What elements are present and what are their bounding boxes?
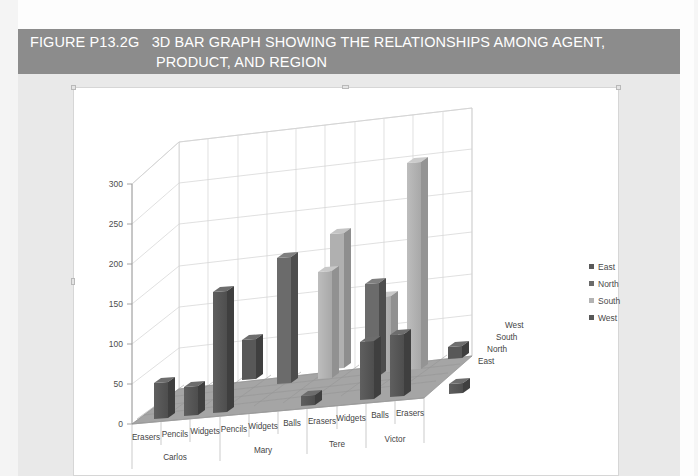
x-label-carlos-widgets: Widgets xyxy=(190,427,220,436)
legend-label-east: East xyxy=(598,262,615,272)
z-axis-label-west: West xyxy=(505,321,524,330)
x-label-carlos-pencils: Pencils xyxy=(162,430,188,439)
x-label-tere-balls: Balls xyxy=(283,419,301,428)
legend-label-south: South xyxy=(598,296,620,306)
figure-label: FIGURE P13.2G xyxy=(30,34,139,50)
x-label-victor-balls: Balls xyxy=(371,411,389,420)
legend-item-west[interactable]: West xyxy=(589,309,620,326)
bar-carlos-widgets-east[interactable] xyxy=(213,286,234,413)
legend-marker-west-icon xyxy=(589,315,594,320)
y-tick-label: 300 xyxy=(109,179,123,189)
y-tick-label: 100 xyxy=(109,339,123,349)
page-margin-left xyxy=(0,0,18,476)
chart-legend[interactable]: East North South West xyxy=(589,258,620,326)
legend-marker-south-icon xyxy=(589,298,594,303)
z-axis-label-south: South xyxy=(496,333,518,342)
x-group-label-mary: Mary xyxy=(254,446,273,455)
chart-plot-container: 300 250 200 150 100 50 0 xyxy=(74,88,618,475)
chart-y-tick-labels: 300 250 200 150 100 50 0 xyxy=(109,179,123,429)
legend-marker-east-icon xyxy=(589,264,594,269)
figure-title-line-2: PRODUCT, AND REGION xyxy=(156,54,327,70)
bar-mary-widgets-south[interactable] xyxy=(318,266,339,379)
chart-object[interactable]: 300 250 200 150 100 50 0 xyxy=(73,87,619,476)
legend-item-east[interactable]: East xyxy=(589,258,620,275)
z-axis-label-north: North xyxy=(487,345,507,354)
y-tick-label: 250 xyxy=(109,219,123,229)
document-page: FIGURE P13.2G 3D BAR GRAPH SHOWING THE R… xyxy=(0,0,698,476)
chart-y-axis-ticks xyxy=(127,184,132,424)
x-label-carlos-erasers: Erasers xyxy=(132,433,160,442)
z-axis-label-east: East xyxy=(478,357,495,366)
legend-item-north[interactable]: North xyxy=(589,275,620,292)
figure-caption-band: FIGURE P13.2G 3D BAR GRAPH SHOWING THE R… xyxy=(18,29,680,74)
bar-carlos-erasers-east[interactable] xyxy=(154,377,175,419)
x-group-label-tere: Tere xyxy=(329,440,345,449)
legend-marker-north-icon xyxy=(589,281,594,286)
figure-caption-line-1: FIGURE P13.2G 3D BAR GRAPH SHOWING THE R… xyxy=(30,34,605,50)
bar-carlos-pencils-east[interactable] xyxy=(184,381,205,416)
bar-victor-erasers-east[interactable] xyxy=(449,378,470,394)
x-label-mary-pencils: Pencils xyxy=(221,425,247,434)
chart-3d-bar-svg: 300 250 200 150 100 50 0 xyxy=(74,88,620,476)
bar-carlos-widgets-west[interactable] xyxy=(242,334,263,380)
bar-mary-pencils-north[interactable] xyxy=(277,252,298,384)
bar-tere-erasers-east[interactable] xyxy=(360,336,381,400)
x-label-tere-erasers: Erasers xyxy=(308,417,336,426)
chart-z-axis-labels: East North South West xyxy=(478,321,524,366)
y-tick-label: 50 xyxy=(114,379,124,389)
x-label-victor-erasers: Erasers xyxy=(396,409,424,418)
legend-label-west: West xyxy=(598,313,617,323)
y-tick-label: 150 xyxy=(109,299,123,309)
x-label-tere-widgets: Widgets xyxy=(336,414,366,423)
page-margin-right xyxy=(694,0,698,476)
worksheet-area: 300 250 200 150 100 50 0 xyxy=(18,74,680,476)
bar-victor-balls-east[interactable] xyxy=(390,329,411,397)
legend-label-north: North xyxy=(598,279,619,289)
y-tick-label: 200 xyxy=(109,259,123,269)
x-group-label-carlos: Carlos xyxy=(163,453,187,462)
chart-x-agent-labels: Carlos Mary Tere Victor xyxy=(163,435,405,462)
figure-title-line-1: 3D BAR GRAPH SHOWING THE RELATIONSHIPS A… xyxy=(152,34,605,50)
x-group-label-victor: Victor xyxy=(385,435,406,444)
legend-item-south[interactable]: South xyxy=(589,292,620,309)
x-label-mary-widgets: Widgets xyxy=(248,422,278,431)
y-tick-label: 0 xyxy=(118,419,123,429)
